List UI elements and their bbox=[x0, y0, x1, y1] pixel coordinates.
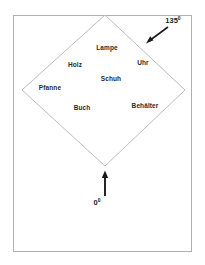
region-label-behaelter: Behälter bbox=[132, 103, 159, 110]
region-label-lampe: Lampe bbox=[96, 45, 117, 52]
angle-135-degree-symbol: 0 bbox=[178, 15, 181, 21]
angle-0-degree-symbol: 0 bbox=[98, 197, 101, 203]
angle-135-label: 1350 bbox=[165, 17, 180, 25]
figure-canvas bbox=[0, 0, 205, 265]
region-label-schuh: Schuh bbox=[101, 76, 121, 83]
region-label-uhr: Uhr bbox=[137, 60, 149, 67]
region-label-pfanne: Pfanne bbox=[39, 85, 61, 92]
region-label-buch: Buch bbox=[74, 105, 91, 112]
region-label-holz: Holz bbox=[68, 62, 82, 69]
angle-0-label: 00 bbox=[94, 199, 101, 207]
angle-135-value: 135 bbox=[165, 16, 178, 25]
